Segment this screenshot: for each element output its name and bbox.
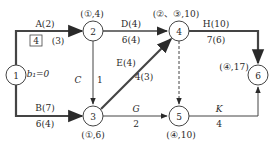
arrow-C-label: C: [75, 75, 82, 85]
node-2: 2: [83, 21, 103, 41]
node-3-label: (①,6): [81, 130, 105, 140]
node-5-label: (④,10): [166, 130, 195, 140]
arrow-G-value: 2: [133, 119, 139, 129]
arrow-D-value: 6(4): [122, 35, 140, 45]
arrow-G-label: G: [132, 104, 139, 114]
node-4: 4: [169, 21, 189, 41]
node-6: 6: [248, 65, 268, 85]
arrow-B-label: B(7): [35, 103, 54, 113]
node-1: 1: [6, 65, 26, 85]
b1-label: b₁=0: [27, 69, 50, 79]
svg-text:4: 4: [33, 36, 39, 46]
svg-text:1: 1: [13, 71, 19, 81]
svg-text:4: 4: [176, 27, 182, 37]
node-2-label: (①,4): [80, 9, 104, 19]
arrow-D-label: D(4): [121, 19, 141, 29]
arrow-H-label: H(10): [203, 19, 229, 29]
arrow-A-value: (3): [52, 36, 65, 46]
arrow-K-value: 4: [216, 119, 222, 129]
arrow-A: [16, 31, 82, 65]
svg-text:6: 6: [255, 71, 261, 81]
arrow-E-label: E(4): [116, 58, 135, 68]
arrow-C-value: 1: [97, 75, 103, 85]
network-diagram: 1 2 3 4 5 6 (①,4) (①,6) (②、③,10) (④,10) …: [0, 0, 274, 143]
node-4-label: (②、③,10): [153, 9, 199, 19]
arrow-K-label: K: [215, 104, 224, 114]
arrow-E-value: 4(3): [135, 72, 153, 82]
arrow-H-value: 7(6): [207, 35, 225, 45]
node-6-label: (④,17): [219, 62, 248, 72]
node-3: 3: [83, 106, 103, 126]
svg-text:3: 3: [90, 112, 96, 122]
arrow-K: [189, 87, 258, 116]
svg-text:2: 2: [90, 27, 96, 37]
svg-text:5: 5: [176, 112, 182, 122]
arrow-B-value: 6(4): [36, 119, 54, 129]
node-5: 5: [169, 106, 189, 126]
arrow-A-label: A(2): [34, 19, 54, 29]
